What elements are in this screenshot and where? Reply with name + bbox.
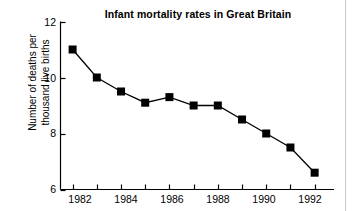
data-point-1990: [262, 130, 270, 138]
data-point-1992: [311, 169, 319, 177]
data-series-markers: [69, 46, 319, 177]
data-point-1988: [214, 102, 222, 110]
data-point-1983: [93, 74, 101, 82]
data-point-1982: [69, 46, 77, 54]
y-axis-ticks: [61, 23, 66, 191]
data-point-1985: [141, 99, 149, 107]
data-point-1987: [190, 102, 198, 110]
data-point-1989: [238, 116, 246, 124]
x-axis-ticks: [74, 185, 316, 190]
data-point-1984: [117, 88, 125, 96]
data-point-1986: [165, 93, 173, 101]
plot-area: [0, 0, 357, 211]
data-point-1991: [286, 144, 294, 152]
data-series-line: [73, 50, 315, 173]
chart-figure: Infant mortality rates in Great Britain …: [0, 0, 357, 211]
